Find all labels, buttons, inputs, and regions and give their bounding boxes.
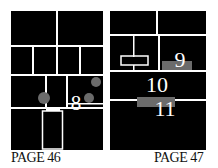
- highlight-circle: [84, 93, 94, 103]
- panel-marker-11: 11: [154, 96, 175, 121]
- panel-marker-9: 9: [175, 47, 186, 72]
- highlight-circle: [91, 77, 101, 87]
- panel-marker-10: 10: [146, 72, 168, 97]
- page-47-label: PAGE 47: [154, 150, 203, 166]
- page-46: 8: [11, 11, 103, 150]
- highlight-circle: [38, 92, 50, 104]
- page-46-label: PAGE 46: [11, 150, 60, 166]
- page-47: 9 10 11: [110, 11, 206, 150]
- outlined-panel: [43, 111, 63, 149]
- page-layout-diagram: 8 9 10 11: [0, 0, 218, 168]
- panel-marker-8: 8: [71, 91, 82, 115]
